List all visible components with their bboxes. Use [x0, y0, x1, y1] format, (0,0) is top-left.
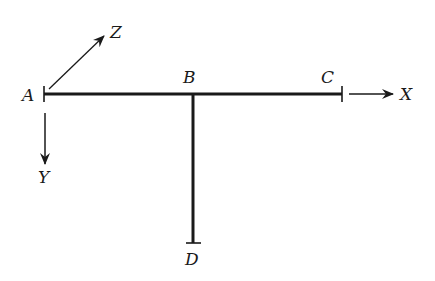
z-axis-arrow [49, 36, 104, 89]
frame-diagram: A B C D X Y Z [0, 0, 435, 281]
axis-label-z: Z [109, 22, 123, 42]
node-label-c: C [321, 67, 334, 87]
axis-label-y: Y [38, 167, 51, 187]
node-label-d: D [184, 249, 199, 269]
node-label-a: A [20, 85, 34, 105]
node-label-b: B [182, 67, 196, 87]
diagram-svg: A B C D X Y Z [0, 0, 435, 281]
axis-label-x: X [398, 84, 413, 104]
